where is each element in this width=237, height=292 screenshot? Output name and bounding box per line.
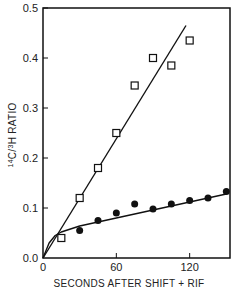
y-tick-label: 0.2: [23, 152, 38, 164]
y-title-c: C/: [7, 149, 18, 160]
point-filled-circle: [186, 197, 193, 204]
fit-line-open-squares: [43, 26, 186, 259]
y-tick-label: 0.0: [23, 252, 38, 264]
chart: 0.00.10.20.30.40.5 060120 SECONDS AFTER …: [0, 0, 237, 292]
point-filled-circle: [223, 188, 230, 195]
y-title-rest: H RATIO: [7, 102, 18, 144]
point-open-square: [95, 165, 102, 172]
fit-lines: [43, 26, 226, 259]
y-tick-label: 0.4: [23, 52, 38, 64]
plot-frame: [43, 8, 230, 258]
point-open-square: [168, 62, 175, 69]
point-filled-circle: [168, 201, 175, 208]
point-open-square: [150, 55, 157, 62]
y-axis-title: 14C/3H RATIO: [7, 102, 18, 167]
y-tick-label: 0.5: [23, 2, 38, 14]
point-open-square: [186, 37, 193, 44]
x-tick-label: 60: [110, 261, 122, 273]
x-tick-label: 0: [40, 261, 46, 273]
y-title-sup-14: 14: [7, 159, 14, 167]
point-filled-circle: [131, 201, 138, 208]
data-points: [58, 37, 230, 242]
y-tick-label: 0.1: [23, 202, 38, 214]
point-filled-circle: [95, 217, 102, 224]
y-axis: 0.00.10.20.30.40.5: [23, 2, 48, 264]
point-open-square: [76, 195, 83, 202]
point-filled-circle: [113, 210, 120, 217]
point-open-square: [113, 130, 120, 137]
x-axis-title: SECONDS AFTER SHIFT + RIF: [54, 278, 205, 289]
y-tick-label: 0.3: [23, 102, 38, 114]
point-filled-circle: [150, 206, 157, 213]
point-filled-circle: [76, 227, 83, 234]
point-open-square: [58, 235, 65, 242]
point-filled-circle: [205, 195, 212, 202]
point-open-square: [131, 82, 138, 89]
x-tick-label: 120: [180, 261, 198, 273]
x-axis: 060120: [40, 253, 199, 273]
